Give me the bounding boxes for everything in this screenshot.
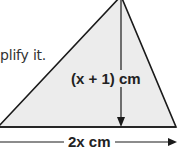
triangle-shape <box>0 0 176 127</box>
base-arrowhead-icon <box>168 138 177 146</box>
height-label: (x + 1) cm <box>69 70 143 87</box>
base-label: 2x cm <box>64 133 115 150</box>
question-text-fragment: plify it. <box>0 47 46 63</box>
